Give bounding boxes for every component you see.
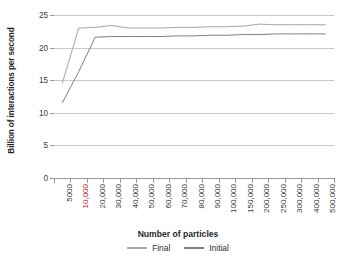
x-axis-tick-mark xyxy=(268,179,269,183)
x-axis-tick-mark xyxy=(169,179,170,183)
x-axis-tick-mark xyxy=(235,179,236,183)
x-axis-tick-label: 100,000 xyxy=(230,184,238,213)
x-axis-tick-labels: 500010,00020,00030,00040,00050,00060,000… xyxy=(54,184,335,228)
x-axis-tick-label: 400,000 xyxy=(313,184,321,213)
x-axis-tick-mark xyxy=(318,179,319,183)
x-axis-tick-mark xyxy=(202,179,203,183)
x-axis-tick-mark xyxy=(285,179,286,183)
legend-swatch-icon xyxy=(184,247,204,248)
y-axis-tick-label: 5 xyxy=(43,141,48,150)
x-axis-tick-label: 90,000 xyxy=(214,184,222,208)
x-axis-tick-label: 10,000 xyxy=(82,184,90,208)
y-axis-tick-labels: 0510152025 xyxy=(22,0,52,190)
x-axis-tick-label: 300,000 xyxy=(296,184,304,213)
x-axis-tick-label: 5000 xyxy=(66,184,74,202)
x-axis-tick-label: 50,000 xyxy=(148,184,156,208)
x-axis-tick-label: 20,000 xyxy=(99,184,107,208)
x-axis-tick-label: 60,000 xyxy=(165,184,173,208)
y-axis-tick-label: 15 xyxy=(39,76,48,85)
legend-label: Initial xyxy=(209,243,229,253)
x-axis-tick-label: 80,000 xyxy=(198,184,206,208)
series-line-initial xyxy=(62,34,326,103)
x-axis-tick-label: 200,000 xyxy=(263,184,271,213)
x-axis-tick-mark xyxy=(334,179,335,183)
x-axis-tick-mark xyxy=(136,179,137,183)
x-axis-tick-label: 30,000 xyxy=(115,184,123,208)
x-axis-title: Number of particles xyxy=(0,229,356,239)
x-axis-tick-mark xyxy=(120,179,121,183)
series-lines xyxy=(54,15,334,178)
legend-swatch-icon xyxy=(127,247,147,248)
y-axis-tick-label: 25 xyxy=(39,11,48,20)
x-axis-tick-mark xyxy=(186,179,187,183)
legend-entry-final[interactable]: Final xyxy=(127,243,170,253)
chart-legend: FinalInitial xyxy=(0,243,356,253)
y-axis-title-text: Billion of interactions per second xyxy=(7,27,16,153)
y-axis-tick-label: 0 xyxy=(43,174,48,183)
x-axis-tick-mark xyxy=(252,179,253,183)
x-axis-tick-mark xyxy=(54,179,55,183)
plot-area xyxy=(54,15,334,178)
line-chart: Billion of interactions per second 05101… xyxy=(0,0,356,266)
x-axis-tick-label: 150,000 xyxy=(247,184,255,213)
x-axis-tick-label: 250,000 xyxy=(280,184,288,213)
y-axis-tick-label: 10 xyxy=(39,108,48,117)
series-line-final xyxy=(62,24,326,83)
legend-label: Final xyxy=(152,243,170,253)
legend-entry-initial[interactable]: Initial xyxy=(184,243,229,253)
x-axis-tick-mark xyxy=(301,179,302,183)
x-axis-tick-label: 70,000 xyxy=(181,184,189,208)
x-axis-tick-label: 40,000 xyxy=(132,184,140,208)
y-axis-tick-label: 20 xyxy=(39,43,48,52)
y-axis-title: Billion of interactions per second xyxy=(0,0,22,180)
x-axis-tick-mark xyxy=(103,179,104,183)
x-axis-tick-label: 500,000 xyxy=(329,184,337,213)
x-axis-tick-mark xyxy=(153,179,154,183)
x-axis-tick-mark xyxy=(219,179,220,183)
x-axis-tick-mark xyxy=(70,179,71,183)
x-axis-tick-mark xyxy=(87,179,88,183)
